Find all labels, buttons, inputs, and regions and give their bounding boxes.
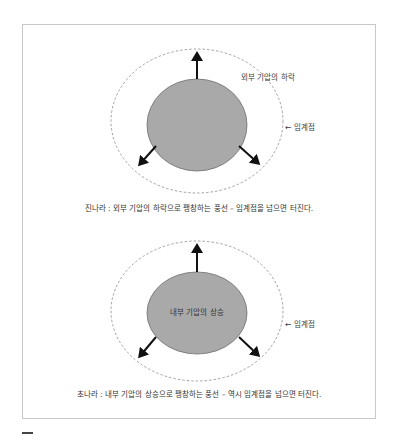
balloon-ellipse <box>147 79 247 171</box>
inner-pressure-label: 내부 기압의 상승 <box>147 309 247 317</box>
balloon-diagrams <box>0 0 397 443</box>
arrow-down-right-icon <box>239 146 258 163</box>
arrow-down-right-icon <box>239 337 258 355</box>
arrow-down-left-icon <box>140 146 156 164</box>
arrow-down-left-icon <box>140 337 156 356</box>
section-end-mark <box>22 432 33 434</box>
outer-pressure-label: 외부 기압의 하락 <box>241 74 295 82</box>
threshold-label: ← 임계점 <box>285 124 315 132</box>
threshold-label: ← 임계점 <box>285 321 315 329</box>
diagram-jin <box>111 49 283 193</box>
caption-jin: 진나라 : 외부 기압의 하락으로 팽창하는 풍선 – 임계점을 넘으면 터진다… <box>22 205 376 213</box>
caption-chu: 초나라 : 내부 기압의 상승으로 팽창하는 풍선 – 역시 임계점을 넘으면 … <box>22 391 376 399</box>
